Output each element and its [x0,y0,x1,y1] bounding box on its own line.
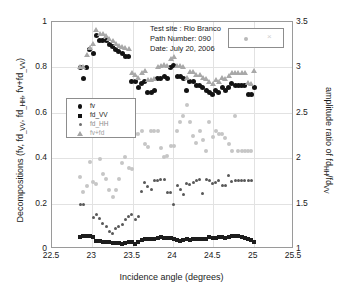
legend-item-fd-hh[interactable]: fd_HH [67,120,135,129]
data-point-fd-hh [134,218,137,221]
data-point-fd-hh [146,185,149,188]
x-tick-label: 24 [167,251,176,260]
data-point-fv [100,38,105,43]
data-point-fd-hh [185,182,188,185]
y-tick-label-right: 2.5 [296,108,308,117]
data-point-fd-hh [105,225,108,228]
data-point-amplitude-ratio [136,132,140,136]
data-point-fv-fd [245,80,251,85]
data-point-fv [162,74,167,79]
data-point-fd-hh [150,188,153,191]
data-point-fv-fd [229,70,235,75]
legend-item-fv[interactable]: fv [67,102,135,111]
y-tick-label-right: 2 [296,153,301,162]
data-point-amplitude-ratio [246,149,250,153]
data-point-fv [142,79,147,84]
data-point-amplitude-ratio [178,120,182,124]
data-point-fv [233,83,238,88]
data-point-amplitude-ratio [146,145,150,149]
data-point-fd-hh [224,184,227,187]
y-tick-label-right: 1 [296,244,301,253]
data-point-fv-fd [239,70,245,75]
data-point-fd-hh [227,174,230,177]
data-point-fv-fd [135,75,141,80]
data-point-fd-vv [162,236,166,240]
data-point-fd-vv [152,237,156,241]
y-axis-left-label: Decompositions (fv, fd_VV, fd_HH, fv+fd_… [16,25,26,255]
data-point-fd-hh [237,179,240,182]
data-point-amplitude-ratio [159,146,163,150]
annotation-line-3: Date: July 20, 2006 [150,44,221,54]
data-point-fd-vv [149,237,153,241]
legend-item-fd-vv[interactable]: fd_VV [67,111,135,120]
data-point-fv [123,54,128,59]
data-point-fv-fd [116,43,122,48]
data-point-amplitude-ratio [220,132,224,136]
data-point-amplitude-ratio [175,129,179,133]
x-tick-label: 24.5 [204,251,221,260]
data-point-fv [191,79,196,84]
data-point-fv-fd [222,76,228,81]
data-point-fd-hh [221,184,224,187]
y-tick-label-left: 0.8 [35,62,47,71]
legend-item-fv-fd[interactable]: fv+fd [67,129,135,138]
data-point-fv [110,44,115,49]
data-point-fd-hh [137,215,140,218]
data-point-amplitude-ratio [117,177,121,181]
data-point-fd-hh [250,179,253,182]
data-point-fv-fd [187,69,193,74]
data-point-fd-hh [98,217,101,220]
data-point-fd-hh [163,178,166,181]
data-point-fd-hh [166,191,169,194]
data-point-fd-vv [204,237,208,241]
data-point-fd-vv [217,235,221,239]
y-tick-label-left: 1 [42,17,47,26]
data-point-fv-fd [190,69,196,74]
data-point-fd-vv [214,236,218,240]
legend-label: fd_HH [90,121,108,128]
y-tick-label-left: 0.4 [35,153,47,162]
data-point-fd-vv [101,240,105,244]
data-point-fd-hh [217,179,220,182]
data-point-fd-hh [95,213,98,216]
cross-marker-icon: × [267,33,272,41]
data-point-fd-vv [133,242,137,246]
gridline-horizontal [52,158,292,159]
data-point-fd-vv [227,235,231,239]
square-marker-icon [74,114,86,118]
data-point-fd-hh [195,179,198,182]
data-point-fd-vv [146,237,150,241]
data-point-amplitude-ratio [223,136,227,140]
data-point-fd-vv [81,234,85,238]
data-point-fd-vv [181,238,185,242]
data-point-fd-hh [234,179,237,182]
data-point-fv-fd [106,36,112,41]
data-point-fd-vv [207,235,211,239]
data-point-fd-hh [243,179,246,182]
data-point-amplitude-ratio [230,149,234,153]
data-point-fv [204,88,209,93]
data-point-fd-hh [159,178,162,181]
data-point-fd-hh [153,179,156,182]
data-point-fv-fd [161,62,167,67]
data-point-fv [97,38,102,43]
data-point-fv-fd [122,45,128,50]
data-point-fd-vv [169,236,173,240]
data-point-fd-vv [88,234,92,238]
data-point-fv-fd [139,70,145,75]
gridline-vertical [173,22,174,247]
data-point-fv [175,74,180,79]
data-point-amplitude-ratio [201,138,205,142]
data-point-fd-vv [230,234,234,238]
data-point-fv-fd [200,75,206,80]
data-point-fd-hh [121,223,124,226]
data-point-fd-hh [205,178,208,181]
data-point-amplitude-ratio [169,144,173,148]
gridline-horizontal [52,204,292,205]
data-point-fd-vv [117,241,121,245]
dot-marker-icon [74,123,86,126]
marker-key-box: × [228,28,284,48]
data-point-fv-fd [184,75,190,80]
data-point-fd-vv [191,237,195,241]
data-point-fv [120,51,125,56]
